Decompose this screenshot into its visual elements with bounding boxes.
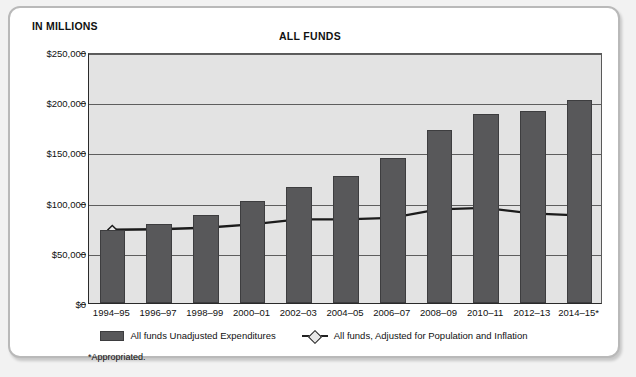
chart-legend: All funds Unadjusted Expenditures All fu…	[10, 330, 618, 341]
legend-item-line: All funds, Adjusted for Population and I…	[302, 330, 528, 341]
chart-title-text: ALL FUNDS	[279, 30, 341, 42]
bar	[193, 215, 219, 303]
y-axis-tick-label: $50,000	[16, 248, 86, 259]
page-title: ALL FUNDS	[10, 30, 618, 42]
y-axis-tick-label: $0	[16, 299, 86, 310]
y-axis-tick-label: $100,000	[16, 198, 86, 209]
x-axis-tick-label: 2006–07	[373, 307, 410, 318]
plot-area	[88, 53, 602, 304]
x-axis-tick-label: 1994–95	[93, 307, 130, 318]
bar	[333, 176, 359, 304]
x-axis-tick-label: 2014–15*	[558, 307, 599, 318]
y-axis-tick-mark	[80, 153, 86, 154]
line-diamond-swatch-icon	[302, 331, 328, 341]
legend-item-bar: All funds Unadjusted Expenditures	[100, 330, 275, 341]
x-axis-tick-label: 2010–11	[467, 307, 503, 318]
x-axis-tick-label: 1996–97	[140, 307, 177, 318]
y-axis-tick-mark	[80, 304, 86, 305]
bar	[427, 130, 453, 303]
bar	[286, 187, 312, 303]
x-axis-labels: 1994–951996–971998–992000–012002–032004–…	[88, 307, 602, 321]
chart-card: IN MILLIONS ALL FUNDS $0$50,000$100,000$…	[8, 6, 620, 358]
bar	[520, 111, 546, 303]
gridline	[89, 54, 601, 55]
y-axis: $0$50,000$100,000$150,000$200,000$250,00…	[10, 53, 86, 304]
bar	[380, 158, 406, 303]
legend-label-bar: All funds Unadjusted Expenditures	[130, 330, 275, 341]
chart-page: IN MILLIONS ALL FUNDS $0$50,000$100,000$…	[0, 0, 636, 377]
bar	[146, 224, 172, 303]
y-axis-tick-label: $150,000	[16, 148, 86, 159]
gridline	[89, 104, 601, 105]
y-axis-tick-mark	[80, 103, 86, 104]
x-axis-tick-label: 2012–13	[513, 307, 550, 318]
bar	[100, 230, 126, 303]
x-axis-tick-label: 2002–03	[280, 307, 317, 318]
x-axis-tick-label: 2000–01	[233, 307, 270, 318]
y-axis-tick-mark	[80, 254, 86, 255]
bar	[567, 100, 593, 303]
x-axis-tick-label: 2004–05	[327, 307, 364, 318]
y-axis-tick-mark	[80, 204, 86, 205]
bar	[473, 114, 499, 303]
y-axis-tick-label: $200,000	[16, 98, 86, 109]
legend-label-line: All funds, Adjusted for Population and I…	[334, 330, 528, 341]
y-axis-tick-label: $250,000	[16, 48, 86, 59]
bar-swatch-icon	[100, 331, 124, 341]
x-axis-tick-label: 1998–99	[186, 307, 223, 318]
y-axis-tick-mark	[80, 53, 86, 54]
legend-diamond-marker-icon	[308, 329, 322, 343]
bar	[240, 201, 266, 303]
x-axis-tick-label: 2008–09	[420, 307, 457, 318]
footnote: *Appropriated.	[88, 352, 146, 362]
